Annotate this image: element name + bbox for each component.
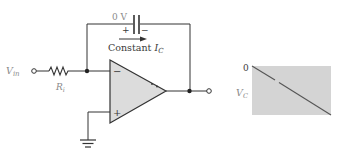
constant-current-label: Constant IC: [108, 42, 164, 55]
capacitor: [134, 15, 139, 34]
inverting-junction-dot: [85, 69, 89, 73]
capacitor-voltage-label: 0 V: [112, 12, 128, 22]
ground-icon: [80, 140, 96, 147]
ground-wire: [88, 112, 110, 140]
input-terminal: [32, 69, 37, 74]
capacitor-minus-label: −: [141, 25, 149, 35]
capacitor-plus-label: +: [122, 25, 130, 35]
current-arrow-icon: [119, 37, 147, 42]
graph-zero-label: 0: [243, 63, 249, 73]
noninverting-input-label: +: [113, 107, 121, 118]
resistor: [49, 67, 70, 75]
capacitor-voltage-graph: 0 VC: [236, 63, 331, 115]
inverting-input-label: −: [113, 66, 121, 77]
input-voltage-label: Vin: [6, 65, 20, 78]
resistor-label: Ri: [55, 82, 65, 94]
output-junction-dot: [187, 89, 191, 93]
output-terminal: [207, 89, 212, 94]
integrator-circuit-diagram: 0 V + − Constant IC Vin Ri − +: [0, 0, 346, 159]
graph-vc-label: VC: [236, 87, 248, 100]
